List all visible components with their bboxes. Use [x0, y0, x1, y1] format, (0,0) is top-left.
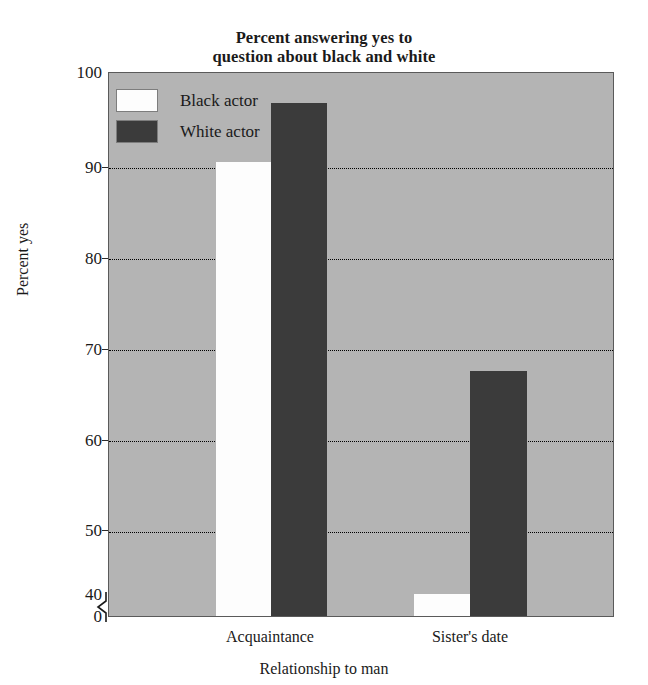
legend-swatch-black-actor	[116, 89, 158, 112]
x-tick-label-sisters-date: Sister's date	[390, 628, 550, 646]
y-tick-label-80: 80	[60, 250, 102, 267]
legend-label-black-actor: Black actor	[180, 91, 258, 111]
bar-acquaintance-white-actor	[271, 103, 327, 616]
x-tick-label-acquaintance: Acquaintance	[190, 628, 350, 646]
gridline-80	[109, 259, 613, 260]
gridline-70	[109, 350, 613, 351]
gridline-50	[109, 532, 613, 533]
bar-sisters-date-black-actor	[414, 594, 470, 616]
y-tick-label-90: 90	[60, 159, 102, 176]
y-tick-label-70: 70	[60, 341, 102, 358]
plot-area: Black actor White actor	[108, 72, 614, 617]
y-tick-label-50: 50	[60, 522, 102, 539]
y-axis: 100 90 80 70 60 50 40 0	[0, 0, 108, 685]
legend-entry-black-actor: Black actor	[116, 89, 260, 112]
legend-label-white-actor: White actor	[180, 122, 260, 142]
gridline-90	[109, 168, 613, 169]
bar-sisters-date-white-actor	[470, 371, 527, 616]
legend-entry-white-actor: White actor	[116, 120, 260, 143]
bar-acquaintance-black-actor	[216, 162, 271, 616]
legend-swatch-white-actor	[116, 120, 158, 143]
y-tick-label-60: 60	[60, 432, 102, 449]
y-axis-title: Percent yes	[14, 223, 32, 296]
axis-break-icon	[96, 592, 112, 622]
legend: Black actor White actor	[116, 89, 260, 151]
bar-chart: Percent answering yes to question about …	[0, 0, 648, 685]
x-axis-title: Relationship to man	[0, 660, 648, 678]
y-tick-label-100: 100	[60, 64, 102, 81]
gridline-60	[109, 441, 613, 442]
